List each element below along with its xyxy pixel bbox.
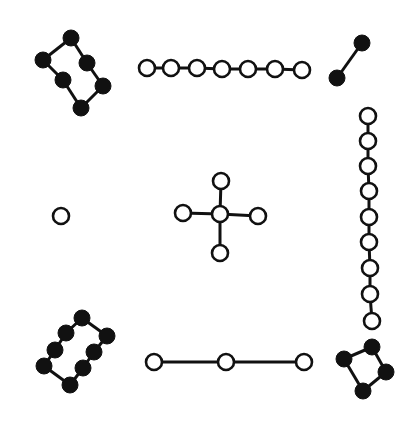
black-dot-icon xyxy=(354,35,370,51)
diagram-drawing xyxy=(0,0,417,421)
white-dot-icon xyxy=(163,60,179,76)
black-dot-icon xyxy=(79,55,95,71)
white-dot-icon xyxy=(250,208,266,224)
dot-group-center xyxy=(175,173,266,261)
dot-group-top-right xyxy=(329,35,370,86)
white-dot-icon xyxy=(360,158,376,174)
dot-group-right xyxy=(360,108,380,329)
white-dot-icon xyxy=(212,245,228,261)
dot-group-left xyxy=(53,208,69,224)
white-dot-icon xyxy=(361,183,377,199)
black-dot-icon xyxy=(99,328,115,344)
black-dot-icon xyxy=(329,70,345,86)
white-dot-icon xyxy=(364,313,380,329)
black-dot-icon xyxy=(336,351,352,367)
white-dot-icon xyxy=(361,234,377,250)
white-dot-icon xyxy=(213,173,229,189)
black-dot-icon xyxy=(63,30,79,46)
dot-group-bottom-right xyxy=(336,339,394,399)
white-dot-icon xyxy=(360,133,376,149)
black-dot-icon xyxy=(86,344,102,360)
white-dot-icon xyxy=(267,61,283,77)
dot-group-top-left xyxy=(35,30,111,116)
dot-group-top xyxy=(139,60,310,78)
white-dot-icon xyxy=(218,354,234,370)
white-dot-icon xyxy=(361,209,377,225)
white-dot-icon xyxy=(362,286,378,302)
white-dot-icon xyxy=(296,354,312,370)
white-dot-icon xyxy=(189,60,205,76)
white-dot-icon xyxy=(175,205,191,221)
white-dot-icon xyxy=(139,60,155,76)
black-dot-icon xyxy=(58,325,74,341)
black-dot-icon xyxy=(75,360,91,376)
white-dot-icon xyxy=(360,108,376,124)
black-dot-icon xyxy=(62,377,78,393)
white-dot-icon xyxy=(53,208,69,224)
black-dot-icon xyxy=(364,339,380,355)
white-dot-icon xyxy=(294,62,310,78)
black-dot-icon xyxy=(74,310,90,326)
black-dot-icon xyxy=(95,78,111,94)
white-dot-icon xyxy=(362,260,378,276)
black-dot-icon xyxy=(36,358,52,374)
dot-group-bottom-left xyxy=(36,310,115,393)
black-dot-icon xyxy=(378,364,394,380)
dot-group-bottom xyxy=(146,354,312,370)
white-dot-icon xyxy=(212,206,228,222)
lo-shu-dot-diagram xyxy=(0,0,417,421)
black-dot-icon xyxy=(73,100,89,116)
black-dot-icon xyxy=(355,383,371,399)
white-dot-icon xyxy=(146,354,162,370)
white-dot-icon xyxy=(240,61,256,77)
black-dot-icon xyxy=(47,342,63,358)
black-dot-icon xyxy=(35,52,51,68)
black-dot-icon xyxy=(55,72,71,88)
white-dot-icon xyxy=(214,61,230,77)
